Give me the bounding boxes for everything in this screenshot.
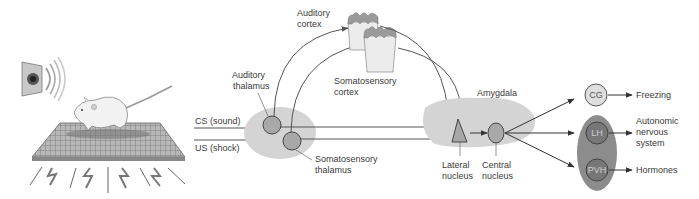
us-label: US (shock) — [195, 143, 240, 153]
central-nucleus-node — [488, 123, 504, 143]
auditory-cortex-label: Auditory — [297, 8, 331, 18]
fear-conditioning-diagram: CS (sound) US (shock) Auditory thalamus … — [0, 0, 699, 199]
ans-label-3: system — [636, 138, 665, 148]
somatosensory-thalamus-label-2: thalamus — [315, 165, 352, 175]
somatosensory-cortex-block — [364, 27, 396, 72]
central-nucleus-label-2: nucleus — [482, 171, 514, 181]
pvh-label: PVH — [588, 165, 607, 175]
lateral-nucleus-label-2: nucleus — [442, 171, 474, 181]
speaker-icon — [22, 57, 65, 101]
ans-label-1: Autonomic — [636, 116, 679, 126]
central-to-pvh-arrow — [505, 133, 574, 167]
ans-label-2: nervous — [636, 127, 669, 137]
cs-label: CS (sound) — [195, 116, 241, 126]
somatosensory-thalamus-node — [283, 132, 301, 150]
lateral-nucleus-label: Lateral — [442, 160, 470, 170]
auditory-thalamus-label: Auditory — [232, 70, 266, 80]
hormones-label: Hormones — [636, 165, 678, 175]
auditory-thalamus-node — [263, 116, 281, 134]
somatosensory-cortex-label: Somatosensory — [334, 76, 397, 86]
shock-grid — [32, 123, 185, 161]
amygdala-label: Amygdala — [477, 88, 517, 98]
auditory-thalamus-label-2: thalamus — [233, 81, 270, 91]
somatosensory-thalamus-label: Somatosensory — [315, 154, 378, 164]
auditory-cortex-label-2: cortex — [297, 19, 322, 29]
thalamus-region — [244, 107, 316, 159]
cg-label: CG — [589, 90, 603, 100]
lh-label: LH — [591, 128, 603, 138]
somatosensory-cortex-label-2: cortex — [334, 87, 359, 97]
central-nucleus-label: Central — [482, 160, 511, 170]
freezing-label: Freezing — [636, 90, 671, 100]
shock-bolts — [30, 167, 185, 193]
